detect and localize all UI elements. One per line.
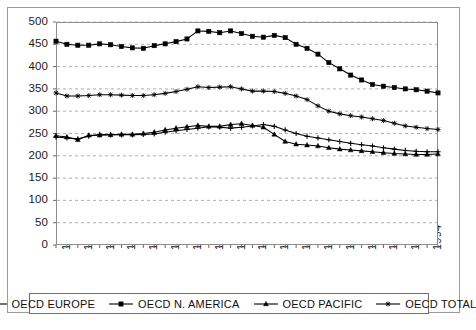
data-point-marker xyxy=(414,125,419,130)
data-point-marker xyxy=(206,85,211,90)
data-point-marker xyxy=(87,43,91,47)
data-point-marker xyxy=(196,29,200,33)
data-point-marker xyxy=(174,89,179,94)
data-point-marker xyxy=(163,91,168,96)
data-point-marker xyxy=(326,109,331,114)
data-point-marker xyxy=(65,42,69,46)
legend-marker-triangle-icon xyxy=(253,298,279,310)
data-point-marker xyxy=(294,42,298,46)
series-line xyxy=(56,31,438,93)
data-point-marker xyxy=(141,93,146,98)
data-point-marker xyxy=(370,143,375,148)
data-point-marker xyxy=(348,141,353,146)
data-point-marker xyxy=(239,31,243,35)
data-point-marker xyxy=(403,87,407,91)
data-point-marker xyxy=(97,92,102,97)
data-point-marker xyxy=(386,301,391,306)
data-point-marker xyxy=(250,89,255,94)
data-point-marker xyxy=(294,94,299,99)
legend-item[interactable]: OECD PACIFIC xyxy=(253,298,363,310)
data-point-marker xyxy=(381,84,385,88)
data-point-marker xyxy=(195,84,200,89)
data-point-marker xyxy=(108,92,113,97)
data-point-marker xyxy=(163,42,167,46)
legend-item[interactable]: OECD TOTAL xyxy=(375,298,476,310)
data-point-marker xyxy=(54,39,58,43)
data-point-marker xyxy=(337,111,342,116)
legend-marker-plus-icon xyxy=(0,298,8,310)
data-point-marker xyxy=(327,60,331,64)
data-point-marker xyxy=(304,134,309,139)
series-line xyxy=(56,124,438,155)
legend-marker-star-icon xyxy=(375,298,401,310)
data-point-marker xyxy=(283,127,288,132)
data-point-marker xyxy=(185,37,189,41)
data-point-marker xyxy=(54,90,59,95)
data-point-marker xyxy=(392,85,396,89)
data-point-marker xyxy=(370,82,374,86)
data-point-marker xyxy=(360,78,364,82)
data-point-marker xyxy=(195,123,200,127)
data-point-marker xyxy=(381,118,386,123)
data-point-marker xyxy=(64,94,69,99)
data-point-marker xyxy=(261,89,266,94)
data-point-marker xyxy=(272,89,277,94)
data-point-marker xyxy=(370,116,375,121)
data-point-marker xyxy=(86,93,91,98)
data-point-marker xyxy=(75,94,80,99)
data-point-marker xyxy=(338,67,342,71)
data-point-marker xyxy=(174,40,178,44)
data-point-marker xyxy=(239,86,244,91)
data-point-marker xyxy=(436,127,441,132)
series-line xyxy=(56,125,438,152)
legend-label: OECD EUROPE xyxy=(12,298,96,310)
data-point-marker xyxy=(152,92,157,97)
data-point-marker xyxy=(152,44,156,48)
data-point-marker xyxy=(119,301,123,305)
series-line xyxy=(56,87,438,130)
data-point-marker xyxy=(315,135,320,140)
data-point-marker xyxy=(349,73,353,77)
legend-label: OECD N. AMERICA xyxy=(138,298,239,310)
data-point-marker xyxy=(326,137,331,142)
data-point-marker xyxy=(316,52,320,56)
data-point-marker xyxy=(359,114,364,119)
data-point-marker xyxy=(130,93,135,98)
data-point-marker xyxy=(229,29,233,33)
data-point-marker xyxy=(207,29,211,33)
data-point-marker xyxy=(305,46,309,50)
legend-label: OECD PACIFIC xyxy=(283,298,363,310)
data-point-marker xyxy=(272,132,277,136)
data-point-marker xyxy=(305,97,310,102)
data-point-marker xyxy=(403,123,408,128)
chart-legend: OECD EUROPEOECD N. AMERICAOECD PACIFICOE… xyxy=(29,293,429,314)
series-oecd-europe xyxy=(53,122,440,154)
data-point-marker xyxy=(239,121,244,125)
legend-marker-square-icon xyxy=(108,298,134,310)
data-point-marker xyxy=(283,91,288,96)
legend-item[interactable]: OECD N. AMERICA xyxy=(108,298,239,310)
data-point-marker xyxy=(283,139,288,143)
data-point-marker xyxy=(359,142,364,147)
data-point-marker xyxy=(119,44,123,48)
data-point-marker xyxy=(425,126,430,131)
data-point-marker xyxy=(272,33,276,37)
data-point-marker xyxy=(414,88,418,92)
data-point-marker xyxy=(141,46,145,50)
data-point-marker xyxy=(337,139,342,144)
data-point-marker xyxy=(130,46,134,50)
data-point-marker xyxy=(76,43,80,47)
data-point-marker xyxy=(228,84,233,89)
data-point-marker xyxy=(283,36,287,40)
data-point-marker xyxy=(184,87,189,92)
legend-item[interactable]: OECD EUROPE xyxy=(0,298,95,310)
data-point-marker xyxy=(272,124,277,129)
data-point-marker xyxy=(261,35,265,39)
data-point-marker xyxy=(436,91,440,95)
data-point-marker xyxy=(294,131,299,136)
data-point-marker xyxy=(217,85,222,90)
data-point-marker xyxy=(119,93,124,98)
data-point-marker xyxy=(348,113,353,118)
data-point-marker xyxy=(315,103,320,108)
